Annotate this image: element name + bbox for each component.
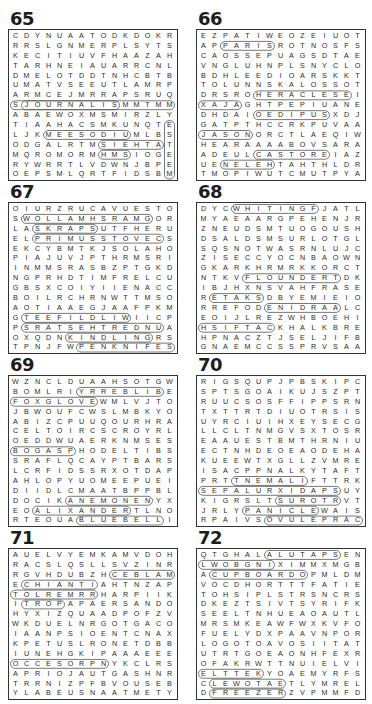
letter-cell[interactable]: U xyxy=(253,486,264,496)
letter-cell[interactable]: S xyxy=(275,590,286,600)
letter-cell[interactable]: R xyxy=(153,80,164,90)
letter-cell[interactable]: S xyxy=(109,244,120,254)
letter-cell[interactable]: T xyxy=(242,120,253,130)
letter-cell[interactable]: Z xyxy=(131,560,142,570)
letter-cell[interactable]: T xyxy=(209,273,220,283)
letter-cell[interactable]: I xyxy=(109,140,120,150)
letter-cell[interactable]: I xyxy=(330,333,341,343)
letter-cell[interactable]: S xyxy=(98,110,109,120)
letter-cell[interactable]: R xyxy=(120,590,131,600)
letter-cell[interactable]: E xyxy=(131,496,142,506)
letter-cell[interactable]: L xyxy=(297,130,308,140)
letter-cell[interactable]: T xyxy=(21,599,32,609)
letter-cell[interactable]: Y xyxy=(65,550,76,560)
letter-cell[interactable]: W xyxy=(54,110,65,120)
letter-cell[interactable]: O xyxy=(275,446,286,456)
letter-cell[interactable]: A xyxy=(87,61,98,71)
letter-cell[interactable]: E xyxy=(87,342,98,352)
letter-cell[interactable]: T xyxy=(297,580,308,590)
letter-cell[interactable]: C xyxy=(131,71,142,81)
letter-cell[interactable]: H xyxy=(21,476,32,486)
letter-cell[interactable]: G xyxy=(352,417,363,427)
letter-cell[interactable]: L xyxy=(297,679,308,689)
letter-cell[interactable]: T xyxy=(352,387,363,397)
letter-cell[interactable]: V xyxy=(330,120,341,130)
letter-cell[interactable]: N xyxy=(220,333,231,343)
letter-cell[interactable]: P xyxy=(164,80,175,90)
letter-cell[interactable]: X xyxy=(264,629,275,639)
letter-cell[interactable]: C xyxy=(164,283,175,293)
letter-cell[interactable]: E xyxy=(231,214,242,224)
letter-cell[interactable]: R xyxy=(275,570,286,580)
letter-cell[interactable]: K xyxy=(153,303,164,313)
letter-cell[interactable]: T xyxy=(286,130,297,140)
letter-cell[interactable]: S xyxy=(352,669,363,679)
letter-cell[interactable]: L xyxy=(120,397,131,407)
letter-cell[interactable]: T xyxy=(242,31,253,41)
letter-cell[interactable]: C xyxy=(131,659,142,669)
letter-cell[interactable]: S xyxy=(21,323,32,333)
letter-cell[interactable]: H xyxy=(153,244,164,254)
letter-cell[interactable]: H xyxy=(341,313,352,323)
letter-cell[interactable]: N xyxy=(253,426,264,436)
letter-cell[interactable]: S xyxy=(10,100,21,110)
letter-cell[interactable]: Y xyxy=(164,110,175,120)
letter-cell[interactable]: K xyxy=(153,263,164,273)
letter-cell[interactable]: M xyxy=(10,150,21,160)
letter-cell[interactable]: A xyxy=(275,140,286,150)
letter-cell[interactable]: K xyxy=(109,120,120,130)
letter-cell[interactable]: O xyxy=(308,609,319,619)
letter-cell[interactable]: C xyxy=(264,342,275,352)
letter-cell[interactable]: H xyxy=(198,323,209,333)
letter-cell[interactable]: R xyxy=(330,679,341,689)
letter-cell[interactable]: S xyxy=(341,426,352,436)
letter-cell[interactable]: S xyxy=(98,214,109,224)
letter-cell[interactable]: O xyxy=(164,244,175,254)
letter-cell[interactable]: U xyxy=(153,90,164,100)
letter-cell[interactable]: C xyxy=(242,253,253,263)
letter-cell[interactable]: J xyxy=(341,214,352,224)
letter-cell[interactable]: T xyxy=(142,377,153,387)
letter-cell[interactable]: O xyxy=(220,51,231,61)
letter-cell[interactable]: S xyxy=(209,234,220,244)
letter-cell[interactable]: S xyxy=(120,150,131,160)
letter-cell[interactable]: I xyxy=(286,303,297,313)
letter-cell[interactable]: S xyxy=(297,639,308,649)
letter-cell[interactable]: S xyxy=(297,426,308,436)
letter-cell[interactable]: B xyxy=(21,110,32,120)
letter-cell[interactable]: P xyxy=(32,169,43,179)
letter-cell[interactable]: N xyxy=(264,61,275,71)
letter-cell[interactable]: I xyxy=(308,100,319,110)
letter-cell[interactable]: P xyxy=(231,570,242,580)
letter-cell[interactable]: A xyxy=(142,283,153,293)
letter-cell[interactable]: A xyxy=(297,629,308,639)
letter-cell[interactable]: R xyxy=(341,140,352,150)
letter-cell[interactable]: A xyxy=(120,649,131,659)
letter-cell[interactable]: U xyxy=(308,169,319,179)
letter-cell[interactable]: S xyxy=(98,426,109,436)
letter-cell[interactable]: I xyxy=(330,599,341,609)
letter-cell[interactable]: E xyxy=(142,234,153,244)
letter-cell[interactable]: O xyxy=(209,313,220,323)
letter-cell[interactable]: I xyxy=(76,333,87,343)
letter-cell[interactable]: R xyxy=(275,90,286,100)
letter-cell[interactable]: G xyxy=(220,639,231,649)
letter-cell[interactable]: A xyxy=(297,446,308,456)
letter-cell[interactable]: P xyxy=(264,51,275,61)
letter-cell[interactable]: P xyxy=(253,590,264,600)
letter-cell[interactable]: E xyxy=(231,160,242,170)
letter-cell[interactable]: A xyxy=(231,110,242,120)
letter-cell[interactable]: H xyxy=(43,61,54,71)
letter-cell[interactable]: S xyxy=(43,169,54,179)
letter-cell[interactable]: E xyxy=(87,41,98,51)
letter-cell[interactable]: D xyxy=(21,140,32,150)
letter-cell[interactable]: S xyxy=(76,130,87,140)
letter-cell[interactable]: I xyxy=(209,377,220,387)
letter-cell[interactable]: T xyxy=(231,669,242,679)
letter-cell[interactable]: O xyxy=(164,397,175,407)
letter-cell[interactable]: R xyxy=(76,426,87,436)
letter-cell[interactable]: M xyxy=(87,550,98,560)
letter-cell[interactable]: R xyxy=(43,234,54,244)
letter-cell[interactable]: T xyxy=(242,323,253,333)
letter-cell[interactable]: T xyxy=(76,244,87,254)
